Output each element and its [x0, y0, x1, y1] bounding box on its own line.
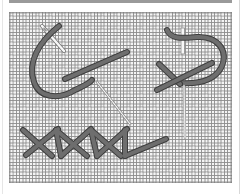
- stitch-illustration: [9, 12, 232, 183]
- needle-icon: [181, 28, 185, 54]
- right-border: [239, 0, 240, 194]
- top-bar: [9, 0, 232, 3]
- needle-icon: [184, 86, 185, 138]
- left-border: [2, 0, 3, 194]
